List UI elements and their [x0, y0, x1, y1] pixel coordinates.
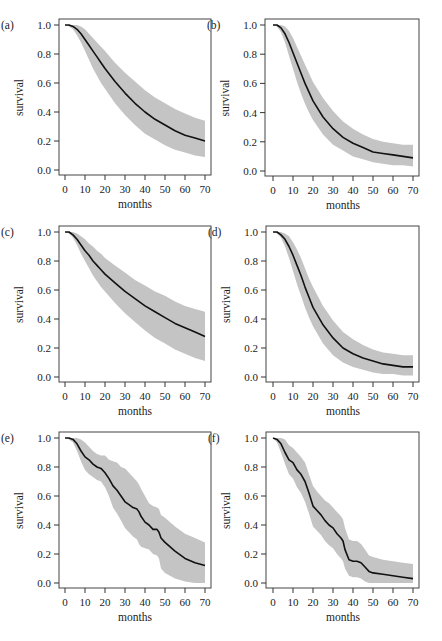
y-tick-label: 0.8 [37, 255, 51, 267]
y-tick-label: 0.4 [244, 313, 258, 325]
confidence-band [273, 438, 413, 583]
y-tick-label: 0.8 [244, 461, 258, 473]
x-axis-title: months [118, 611, 152, 623]
panel-e: 0.00.20.40.60.81.0010203040506070monthss… [1, 432, 211, 623]
x-tick-label: 40 [348, 184, 360, 196]
y-tick-label: 0.2 [243, 136, 257, 148]
x-tick-label: 20 [308, 184, 320, 196]
x-tick-label: 60 [388, 184, 400, 196]
y-tick-label: 0.4 [37, 519, 51, 531]
x-tick-label: 50 [160, 183, 172, 195]
x-tick-label: 0 [62, 183, 68, 195]
y-tick-label: 1.0 [37, 432, 51, 444]
panel-f: 0.00.20.40.60.81.0010203040506070monthss… [208, 432, 419, 623]
x-tick-label: 60 [180, 183, 192, 195]
x-tick-label: 30 [328, 596, 340, 608]
y-tick-label: 0.8 [37, 48, 51, 60]
x-tick-label: 10 [80, 183, 92, 195]
y-tick-label: 0.8 [244, 255, 258, 267]
x-tick-label: 20 [308, 596, 320, 608]
y-tick-label: 0.0 [37, 164, 51, 176]
y-tick-label: 0.8 [37, 461, 51, 473]
x-axis-title: months [118, 198, 152, 210]
confidence-band [65, 438, 205, 583]
y-tick-label: 0.4 [37, 313, 51, 325]
y-tick-label: 0.6 [37, 77, 51, 89]
panel-label: (d) [208, 226, 222, 239]
y-axis-title: survival [219, 79, 231, 116]
panel-label: (a) [1, 19, 14, 32]
y-tick-label: 0.4 [37, 106, 51, 118]
x-tick-label: 30 [120, 390, 132, 402]
x-axis-title: months [326, 405, 360, 417]
x-tick-label: 30 [120, 596, 132, 608]
y-tick-label: 0.8 [243, 48, 257, 60]
x-tick-label: 10 [80, 596, 92, 608]
x-tick-label: 0 [270, 184, 276, 196]
confidence-band [273, 232, 413, 376]
x-tick-label: 40 [348, 390, 360, 402]
panel-label: (b) [207, 19, 221, 32]
x-tick-label: 50 [160, 596, 172, 608]
x-tick-label: 20 [100, 183, 112, 195]
panel-c: 0.00.20.40.60.81.0010203040506070monthss… [1, 226, 211, 417]
y-tick-label: 0.4 [243, 107, 257, 119]
y-tick-label: 0.4 [244, 519, 258, 531]
x-tick-label: 50 [160, 390, 172, 402]
x-tick-label: 50 [368, 390, 380, 402]
y-axis-title: survival [220, 492, 232, 529]
figure-caption-fragment [8, 636, 68, 641]
panel-label: (c) [1, 226, 14, 239]
y-tick-label: 0.2 [37, 342, 51, 354]
x-tick-label: 20 [100, 596, 112, 608]
y-tick-label: 0.0 [37, 577, 51, 589]
x-tick-label: 40 [140, 183, 152, 195]
x-axis-title: months [118, 405, 152, 417]
panel-d: 0.00.20.40.60.81.0010203040506070monthss… [208, 226, 419, 417]
x-tick-label: 20 [100, 390, 112, 402]
x-axis-title: months [326, 611, 360, 623]
y-tick-label: 1.0 [37, 19, 51, 31]
x-tick-label: 0 [62, 596, 68, 608]
x-tick-label: 0 [270, 596, 276, 608]
x-tick-label: 40 [140, 596, 152, 608]
x-tick-label: 40 [140, 390, 152, 402]
x-tick-label: 40 [348, 596, 360, 608]
x-tick-label: 70 [200, 596, 212, 608]
y-tick-label: 0.0 [244, 577, 258, 589]
x-tick-label: 70 [200, 183, 212, 195]
y-tick-label: 0.2 [244, 342, 258, 354]
y-tick-label: 0.0 [244, 371, 258, 383]
y-axis-title: survival [220, 286, 232, 323]
x-tick-label: 60 [388, 596, 400, 608]
x-tick-label: 70 [200, 390, 212, 402]
x-tick-label: 30 [328, 390, 340, 402]
x-tick-label: 10 [288, 184, 300, 196]
panel-label: (f) [208, 432, 220, 445]
y-tick-label: 0.2 [37, 548, 51, 560]
x-tick-label: 10 [288, 596, 300, 608]
y-tick-label: 0.6 [244, 490, 258, 502]
y-tick-label: 1.0 [243, 19, 257, 31]
x-tick-label: 30 [328, 184, 340, 196]
y-tick-label: 1.0 [244, 432, 258, 444]
x-axis-title: months [326, 199, 360, 211]
y-tick-label: 1.0 [37, 226, 51, 238]
x-tick-label: 70 [408, 390, 420, 402]
y-tick-label: 0.6 [244, 284, 258, 296]
x-tick-label: 70 [408, 596, 420, 608]
y-tick-label: 0.6 [37, 490, 51, 502]
y-tick-label: 0.2 [244, 548, 258, 560]
confidence-band [65, 25, 205, 157]
y-tick-label: 0.6 [243, 77, 257, 89]
x-tick-label: 50 [368, 596, 380, 608]
panel-label: (e) [1, 432, 14, 445]
y-axis-title: survival [13, 492, 25, 529]
confidence-band [273, 25, 413, 167]
y-axis-title: survival [13, 79, 25, 116]
x-tick-label: 0 [270, 390, 276, 402]
x-tick-label: 10 [80, 390, 92, 402]
panel-b: 0.00.20.40.60.81.0010203040506070monthss… [207, 19, 419, 211]
x-tick-label: 0 [62, 390, 68, 402]
x-tick-label: 50 [368, 184, 380, 196]
